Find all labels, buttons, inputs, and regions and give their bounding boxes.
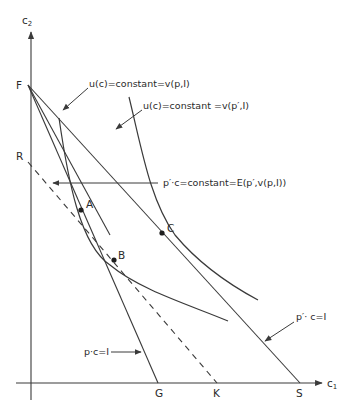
point-B	[111, 257, 116, 262]
label-A: A	[86, 198, 94, 210]
label-C: C	[167, 222, 174, 234]
indifference-curve-high	[129, 97, 258, 300]
label-R: R	[16, 150, 23, 162]
annotation-indiff-high: u(c)=constant =v(p′,I)	[143, 100, 249, 111]
annotation-expenditure: p′·c=constant=E(p′,v(p,I))	[163, 177, 286, 188]
y-axis-label: c2	[22, 14, 32, 28]
arrow-indiff-low	[63, 88, 88, 110]
arrow-indiff-high	[116, 110, 142, 129]
arrow-budget-new	[265, 322, 294, 341]
label-G: G	[155, 387, 163, 399]
label-S: S	[296, 387, 303, 399]
label-B: B	[118, 249, 125, 261]
label-F: F	[16, 79, 22, 91]
indifference-curve-low	[59, 118, 228, 321]
steep-line-F	[28, 85, 110, 235]
annotation-budget-new: p′· c=I	[296, 311, 326, 322]
budget-line-old	[28, 85, 158, 383]
point-A	[78, 207, 83, 212]
expenditure-line	[28, 162, 217, 383]
label-K: K	[213, 387, 221, 399]
annotation-indiff-low: u(c)=constant=v(p,I)	[89, 78, 190, 89]
consumer-choice-diagram: c2 c1 F R A B C G K S u(c)=constant=v(p,…	[0, 0, 351, 412]
annotation-budget-old: p·c=I	[84, 346, 109, 357]
x-axis-label: c1	[327, 377, 337, 391]
point-C	[159, 230, 164, 235]
